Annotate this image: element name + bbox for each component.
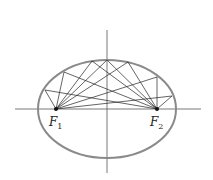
focal-ray: [45, 90, 56, 109]
focal-ray: [56, 60, 107, 109]
focus-2-point: [155, 107, 159, 111]
focus-1-label: F1: [48, 115, 62, 131]
focal-ray: [56, 77, 157, 109]
focal-rays: [45, 60, 172, 109]
focal-ray: [64, 72, 157, 109]
focal-ray: [157, 96, 172, 109]
focus-2-label: F2: [149, 115, 163, 131]
focus-1-point: [54, 107, 58, 111]
focal-ray: [128, 62, 157, 109]
ellipse-diagram: F1 F2: [0, 0, 213, 180]
